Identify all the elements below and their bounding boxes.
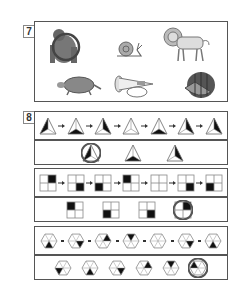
grid-step-5 <box>149 173 169 193</box>
grid-option-4[interactable] <box>173 200 193 220</box>
triangle-step-1 <box>38 116 58 136</box>
grid-step-6 <box>176 173 196 193</box>
turtle-image[interactable] <box>55 73 103 97</box>
arrow-right-icon <box>114 123 121 129</box>
triangle-option-1[interactable] <box>81 143 101 163</box>
grid-step-7 <box>204 173 224 193</box>
grid-step-1 <box>38 173 58 193</box>
hexagon-puzzle-box <box>34 226 228 280</box>
triangle-options <box>35 141 227 165</box>
arrow-right-icon <box>86 180 93 186</box>
arrow-right-icon <box>169 180 176 186</box>
triangle-option-2[interactable] <box>123 143 143 163</box>
arrow-right-icon <box>114 180 121 186</box>
arrow-right-icon <box>60 238 65 244</box>
arrow-right-icon <box>87 238 92 244</box>
grid-step-2 <box>66 173 86 193</box>
arrow-right-icon <box>196 123 203 129</box>
hexagon-options <box>35 256 227 280</box>
snail-image[interactable] <box>115 39 145 59</box>
arrow-right-icon <box>170 238 175 244</box>
grid-step-3 <box>93 173 113 193</box>
arrow-right-icon <box>58 123 65 129</box>
question-7-box <box>34 21 228 102</box>
arrow-right-icon <box>197 238 202 244</box>
arrow-right-icon <box>115 238 120 244</box>
hexagon-step-7 <box>203 231 223 251</box>
triangle-step-2 <box>66 116 86 136</box>
arrow-right-icon <box>169 123 176 129</box>
horn-image[interactable] <box>113 74 157 100</box>
grid-options <box>35 198 227 222</box>
gorilla-image[interactable] <box>47 27 83 67</box>
arrow-right-icon <box>142 238 147 244</box>
grid-sequence <box>35 171 227 195</box>
watermelon-image[interactable] <box>181 70 217 100</box>
triangle-step-4 <box>121 116 141 136</box>
hexagon-step-4 <box>121 231 141 251</box>
arrow-right-icon <box>86 123 93 129</box>
arrow-right-icon <box>196 180 203 186</box>
triangle-step-7 <box>204 116 224 136</box>
triangle-step-5 <box>149 116 169 136</box>
grid-puzzle-box <box>34 168 228 222</box>
hexagon-step-6 <box>176 231 196 251</box>
hexagon-step-5 <box>148 231 168 251</box>
triangle-option-3[interactable] <box>165 143 185 163</box>
grid-option-2[interactable] <box>101 200 121 220</box>
hexagon-option-5[interactable] <box>161 258 181 278</box>
grid-option-1[interactable] <box>65 200 85 220</box>
triangle-sequence <box>35 114 227 138</box>
arrow-right-icon <box>141 123 148 129</box>
hexagon-option-3[interactable] <box>107 258 127 278</box>
lion-image[interactable] <box>163 27 213 65</box>
hexagon-sequence <box>35 229 227 253</box>
arrow-right-icon <box>58 180 65 186</box>
hexagon-option-2[interactable] <box>80 258 100 278</box>
hexagon-step-2 <box>66 231 86 251</box>
triangle-step-6 <box>176 116 196 136</box>
triangle-step-3 <box>93 116 113 136</box>
hexagon-step-1 <box>39 231 59 251</box>
hexagon-option-4[interactable] <box>134 258 154 278</box>
hexagon-option-6[interactable] <box>188 258 208 278</box>
grid-step-4 <box>121 173 141 193</box>
hexagon-step-3 <box>93 231 113 251</box>
triangle-puzzle-box <box>34 111 228 165</box>
hexagon-option-1[interactable] <box>53 258 73 278</box>
grid-option-3[interactable] <box>137 200 157 220</box>
arrow-right-icon <box>141 180 148 186</box>
